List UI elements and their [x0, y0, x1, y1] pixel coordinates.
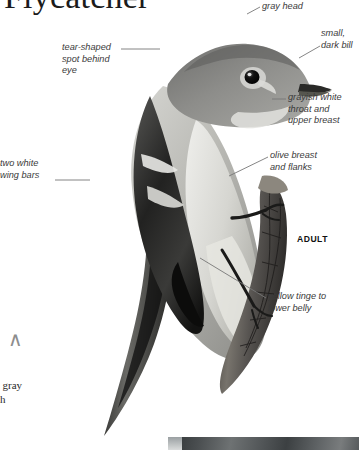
field-guide-plate: Flycatcher: [0, 0, 359, 450]
callout-small-dark-bill: small, dark bill: [321, 28, 353, 51]
callout-gray-head: gray head: [262, 1, 303, 13]
callout-tear-shaped-spot: tear-shaped spot behind eye: [62, 42, 111, 77]
callout-olive-breast: olive breast and flanks: [270, 150, 317, 173]
habitat-photo-strip: [168, 437, 359, 450]
bird-illustration: [0, 0, 359, 450]
callout-grayish-white-throat: grayish white throat and upper breast: [288, 92, 342, 127]
column-tick-mark: ∧: [8, 330, 26, 348]
stage-label-adult: ADULT: [297, 234, 328, 244]
page-title: Flycatcher: [4, 0, 150, 16]
adjacent-column-text-fragment: , gray th: [0, 378, 22, 406]
callout-two-white-wing-bars: two white wing bars: [0, 158, 39, 181]
callout-yellow-tinge: yellow tinge to lower belly: [268, 291, 326, 314]
